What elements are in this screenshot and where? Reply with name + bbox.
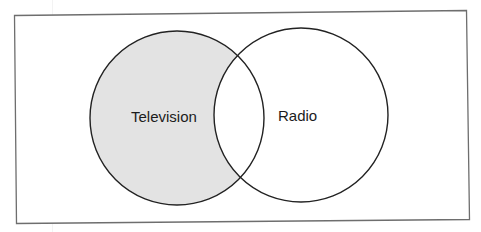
television-label: Television [131, 108, 197, 125]
venn-diagram: Television Radio [0, 0, 481, 232]
radio-label: Radio [278, 107, 317, 124]
